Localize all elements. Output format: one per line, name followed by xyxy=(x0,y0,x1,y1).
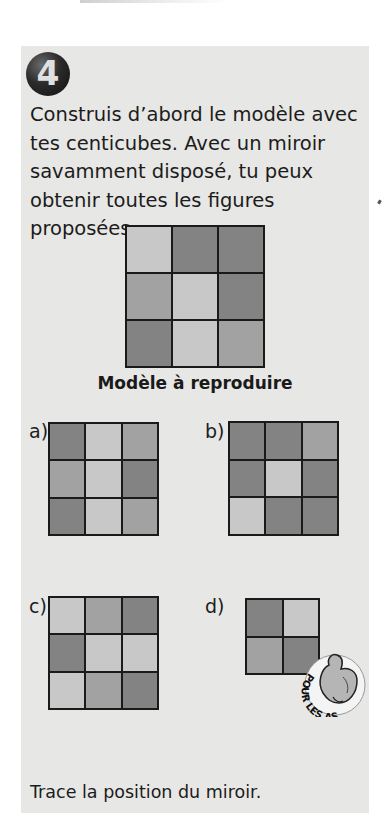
cube-cell-dark xyxy=(123,461,157,496)
exercise-number: 4 xyxy=(37,57,60,90)
figure-c-label: c) xyxy=(29,595,47,617)
cube-cell-light xyxy=(86,461,120,496)
instruction-line: tes centicubes. Avec un miroir xyxy=(30,132,325,155)
instructions-text: Construis d’abord le modèle avec tes cen… xyxy=(30,101,368,244)
cube-cell-dark xyxy=(303,461,337,497)
cube-cell-medium xyxy=(219,321,263,366)
cube-cell-light xyxy=(50,598,84,633)
cube-cell-medium xyxy=(123,424,157,459)
cube-cell-dark xyxy=(173,227,217,272)
cube-cell-dark xyxy=(123,598,157,633)
cube-cell-light xyxy=(173,274,217,319)
page-top-fragment xyxy=(80,0,230,3)
figure-a-grid xyxy=(48,422,159,536)
cube-cell-dark xyxy=(50,424,84,459)
cube-cell-medium xyxy=(127,274,171,319)
cube-cell-dark xyxy=(219,274,263,319)
cube-cell-dark xyxy=(266,498,300,534)
cube-cell-medium xyxy=(247,638,282,674)
cube-cell-light xyxy=(230,498,264,534)
cube-cell-light xyxy=(266,461,300,497)
cube-cell-light xyxy=(123,635,157,670)
cube-cell-light xyxy=(50,673,84,708)
cube-cell-light xyxy=(173,321,217,366)
cube-cell-light xyxy=(86,424,120,459)
cube-cell-light xyxy=(284,600,319,636)
figure-c-grid xyxy=(48,596,159,710)
cube-cell-dark xyxy=(50,635,84,670)
figure-b-label: b) xyxy=(205,420,224,442)
cube-cell-light xyxy=(86,499,120,534)
cube-cell-dark xyxy=(230,461,264,497)
cube-cell-light xyxy=(86,635,120,670)
cube-cell-dark xyxy=(230,423,264,459)
cube-cell-medium xyxy=(86,673,120,708)
model-caption: Modèle à reproduire xyxy=(21,373,369,393)
cube-cell-dark xyxy=(123,673,157,708)
cube-cell-light xyxy=(127,227,171,272)
model-grid xyxy=(125,225,265,368)
cube-cell-dark xyxy=(303,498,337,534)
cube-cell-medium xyxy=(123,499,157,534)
figure-b-grid xyxy=(228,421,339,536)
instruction-line: savamment disposé, tu peux xyxy=(30,160,313,183)
margin-mark xyxy=(377,200,382,205)
exercise-panel: 4 Construis d’abord le modèle avec tes c… xyxy=(21,46,369,813)
footer-instruction: Trace la position du miroir. xyxy=(30,782,261,802)
figure-d-label: d) xyxy=(205,595,224,617)
cube-cell-dark xyxy=(50,499,84,534)
cube-cell-medium xyxy=(86,598,120,633)
cube-cell-medium xyxy=(50,461,84,496)
exercise-number-badge: 4 xyxy=(26,52,70,96)
cube-cell-medium xyxy=(303,423,337,459)
instruction-line: Construis d’abord le modèle avec xyxy=(30,103,358,126)
cube-cell-dark xyxy=(266,423,300,459)
cube-cell-dark xyxy=(127,321,171,366)
cube-cell-dark xyxy=(219,227,263,272)
cube-cell-dark xyxy=(247,600,282,636)
figure-a-label: a) xyxy=(29,420,48,442)
thumbs-up-aces-icon: POUR LES AS xyxy=(299,649,367,717)
